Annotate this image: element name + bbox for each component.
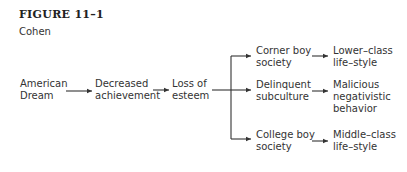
- node-middle-class-line1: Middle–class: [333, 129, 396, 141]
- node-malicious-line2: negativistic: [333, 91, 391, 103]
- node-delinquent-subculture: Delinquent subculture: [256, 79, 311, 103]
- node-college-boy-line1: College boy: [256, 129, 315, 141]
- node-american-dream: American Dream: [20, 78, 68, 102]
- node-decreased-achievement-line1: Decreased: [95, 78, 160, 90]
- node-middle-class-line2: life–style: [333, 141, 396, 153]
- node-malicious-line1: Malicious: [333, 79, 391, 91]
- node-corner-boy-line2: society: [256, 57, 311, 69]
- node-american-dream-line1: American: [20, 78, 68, 90]
- node-lower-class-line2: life–style: [333, 57, 393, 69]
- node-malicious-negativistic-behavior: Malicious negativistic behavior: [333, 79, 391, 115]
- node-loss-of-esteem-line1: Loss of: [172, 78, 209, 90]
- node-loss-of-esteem-line2: esteem: [172, 90, 209, 102]
- node-delinquent-line1: Delinquent: [256, 79, 311, 91]
- node-decreased-achievement-line2: achievement: [95, 90, 160, 102]
- node-corner-boy-line1: Corner boy: [256, 45, 311, 57]
- node-delinquent-line2: subculture: [256, 91, 311, 103]
- node-american-dream-line2: Dream: [20, 90, 68, 102]
- node-lower-class-line1: Lower–class: [333, 45, 393, 57]
- node-college-boy-society: College boy society: [256, 129, 315, 153]
- node-middle-class-lifestyle: Middle–class life–style: [333, 129, 396, 153]
- node-corner-boy-society: Corner boy society: [256, 45, 311, 69]
- node-decreased-achievement: Decreased achievement: [95, 78, 160, 102]
- node-loss-of-esteem: Loss of esteem: [172, 78, 209, 102]
- node-college-boy-line2: society: [256, 141, 315, 153]
- node-lower-class-lifestyle: Lower–class life–style: [333, 45, 393, 69]
- node-malicious-line3: behavior: [333, 103, 391, 115]
